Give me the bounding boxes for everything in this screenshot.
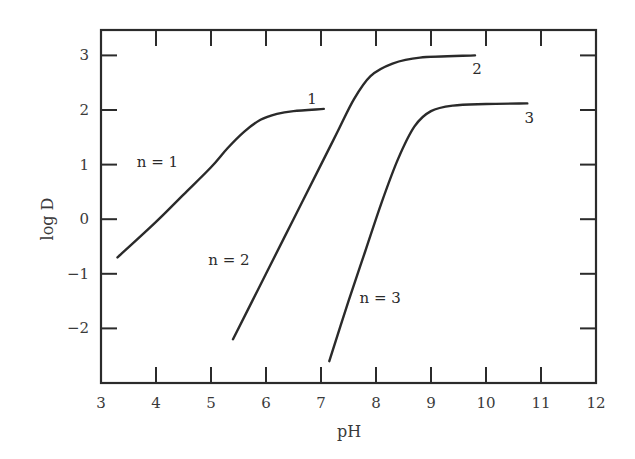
curve-1 — [118, 109, 324, 258]
y-tick-label: 1 — [79, 156, 89, 174]
x-tick-label: 7 — [316, 394, 326, 412]
y-tick-label: 3 — [79, 46, 89, 64]
x-tick-label: 10 — [476, 394, 495, 412]
x-tick-label: 5 — [206, 394, 216, 412]
y-tick-label: 0 — [79, 210, 89, 228]
y-tick-label: −1 — [67, 265, 89, 283]
x-tick-label: 12 — [586, 394, 605, 412]
plot-border — [101, 30, 596, 383]
curve-annotation: 2 — [472, 60, 482, 78]
axis-ticks — [101, 30, 596, 383]
curve-annotation: 3 — [525, 109, 535, 127]
x-tick-label: 3 — [96, 394, 106, 412]
curve-2 — [233, 55, 475, 339]
x-tick-label: 6 — [261, 394, 271, 412]
data-curves — [118, 55, 528, 361]
x-tick-label: 4 — [151, 394, 161, 412]
curve-annotation: 1 — [307, 90, 317, 108]
x-tick-label: 8 — [371, 394, 381, 412]
y-tick-label: −2 — [67, 319, 89, 337]
y-axis-label: log D — [38, 198, 57, 241]
x-tick-label: 11 — [531, 394, 550, 412]
curve-3 — [329, 103, 527, 361]
curve-annotation: n = 2 — [208, 251, 249, 269]
x-axis-label: pH — [337, 422, 361, 441]
curve-annotation: n = 1 — [137, 153, 178, 171]
curve-annotation: n = 3 — [360, 289, 401, 307]
y-tick-label: 2 — [79, 101, 89, 119]
plot-frame — [101, 30, 596, 383]
chart: 34567891011123210−1−2 n = 1n = 2n = 3123… — [0, 0, 635, 459]
x-tick-label: 9 — [426, 394, 436, 412]
